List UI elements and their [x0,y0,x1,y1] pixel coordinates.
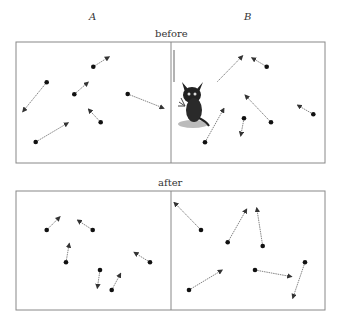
particle-dot [264,64,269,69]
particle-dot [98,120,103,125]
velocity-arrow [66,243,69,262]
velocity-arrow [241,118,244,136]
velocity-arrow [257,208,263,246]
velocity-arrow [128,94,164,108]
particle-dot [44,228,49,233]
particle-dot [90,228,95,233]
particle-dot [225,240,230,245]
particle-dot [253,268,258,273]
particle-dot [72,92,77,97]
velocity-arrow [134,252,150,262]
particle-dot [148,260,153,265]
particle-dot [64,260,69,265]
particle-dot [303,260,308,265]
velocity-arrow [174,202,201,230]
velocity-arrow [97,270,100,288]
diagram-canvas [0,0,342,327]
particle-dot [311,112,316,117]
particle-dot [187,288,192,293]
daemon-mascot-icon [178,82,209,128]
velocity-arrow [245,95,271,122]
velocity-arrow [77,220,92,230]
particle-dot [199,228,204,233]
particle-dot [109,288,114,293]
particle-dot [125,92,130,97]
diagram-layer [16,42,325,310]
velocity-arrow [93,57,109,67]
velocity-arrow [23,82,47,111]
velocity-arrow [297,105,313,114]
velocity-arrow [36,123,69,142]
velocity-arrow [252,58,267,67]
particle-dot [98,268,103,273]
velocity-arrow [47,217,60,230]
velocity-arrow [88,109,100,122]
particle-dot [260,244,265,249]
particle-dot [269,120,274,125]
particle-dot [33,140,38,145]
velocity-arrow [293,262,305,298]
velocity-arrow [74,82,88,94]
particle-dot [242,116,247,121]
velocity-arrow [112,273,121,290]
particle-dot [91,64,96,69]
velocity-arrow [228,209,247,242]
velocity-arrow [189,270,222,290]
particle-dot [44,80,49,85]
velocity-arrow [255,270,292,277]
particle-dot [203,140,208,145]
velocity-arrow [217,56,242,82]
